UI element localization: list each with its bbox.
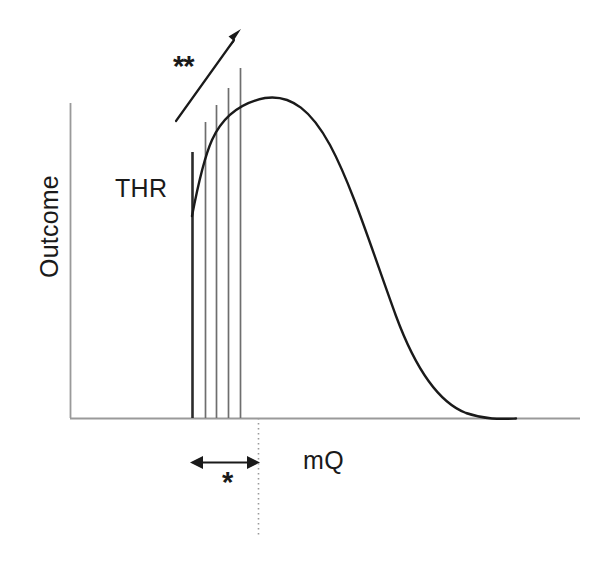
significance-single-star-label: * <box>222 468 233 497</box>
y-axis-label: Outcome <box>37 152 62 302</box>
threshold-label: THR <box>115 176 167 201</box>
axes-group <box>70 103 580 419</box>
range-arrow-head-right <box>247 456 260 469</box>
mq-axis-label: mQ <box>303 448 344 473</box>
significance-double-star-label: ** <box>173 52 194 81</box>
figure-panel: Outcome THR mQ ** * <box>0 0 589 564</box>
threshold-bars-group <box>193 68 241 418</box>
range-arrow-head-left <box>190 456 203 469</box>
figure-canvas <box>0 0 589 564</box>
